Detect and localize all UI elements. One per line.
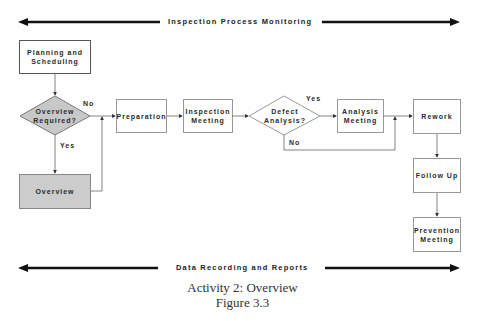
caption-title: Activity 2: Overview xyxy=(0,281,485,295)
bottom-left-arrow-icon xyxy=(18,264,158,272)
preparation-node: Preparation xyxy=(117,100,166,132)
prevention-meeting-node: Prevention Meeting xyxy=(414,218,460,251)
defect-no-label: No xyxy=(289,138,300,147)
follow-up-node: Follow Up xyxy=(414,159,460,192)
top-right-arrow-icon xyxy=(322,18,460,26)
inspection-meeting-node: Inspection Meeting xyxy=(184,100,232,132)
defect-yes-label: Yes xyxy=(306,94,321,103)
overview-no-label: No xyxy=(83,99,94,108)
defect-analysis-decision: Defect Analysis? xyxy=(258,104,312,128)
analysis-meeting-node: Analysis Meeting xyxy=(338,100,383,132)
overview-required-decision: Overview Required? xyxy=(28,104,82,128)
rework-node: Rework xyxy=(414,100,460,133)
bottom-right-arrow-icon xyxy=(325,264,460,272)
bottom-banner-label: Data Recording and Reports xyxy=(176,263,308,272)
top-left-arrow-icon xyxy=(18,18,160,26)
overview-node: Overview xyxy=(20,175,90,208)
planning-node: Planning and Scheduling xyxy=(20,41,90,73)
overview-yes-label: Yes xyxy=(60,141,75,150)
caption-figure-number: Figure 3.3 xyxy=(0,296,485,310)
top-banner-label: Inspection Process Monitoring xyxy=(168,17,312,26)
flowchart-figure: Inspection Process Monitoring Data Recor… xyxy=(0,0,485,321)
